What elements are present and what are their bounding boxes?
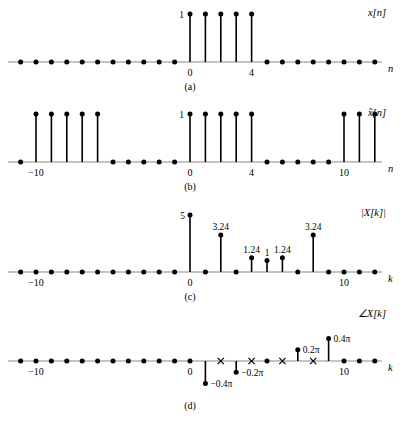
value-label: 1.24 xyxy=(274,245,291,255)
sample-point xyxy=(218,12,223,17)
value-label: 5 xyxy=(180,211,185,221)
sample-point xyxy=(265,359,270,364)
sample-point xyxy=(372,112,377,117)
value-label: 3.24 xyxy=(212,222,229,232)
sample-point xyxy=(280,255,285,260)
sample-point xyxy=(280,60,285,65)
sample-point xyxy=(295,160,300,165)
value-label: −0.4π xyxy=(210,379,232,389)
value-label: 0.4π xyxy=(334,334,351,344)
panel-c-plot: k|X[k]|53.241.2411.243.24−10010(c) xyxy=(0,200,407,310)
sample-point xyxy=(203,12,208,17)
sample-point xyxy=(141,60,146,65)
sample-point xyxy=(249,112,254,117)
sample-point xyxy=(342,60,347,65)
sample-point xyxy=(311,160,316,165)
sample-point xyxy=(111,60,116,65)
sample-point xyxy=(188,112,193,117)
x-tick-label: 0 xyxy=(188,67,193,78)
sample-point xyxy=(157,270,162,275)
sample-point xyxy=(49,60,54,65)
axis-variable-label: n xyxy=(388,63,393,74)
sample-point xyxy=(49,112,54,117)
sample-point xyxy=(203,381,208,386)
value-label: 0.2π xyxy=(303,345,320,355)
sample-point xyxy=(80,270,85,275)
sample-point xyxy=(172,270,177,275)
sample-point xyxy=(311,60,316,65)
sample-point xyxy=(64,359,69,364)
sample-point xyxy=(188,359,193,364)
panel-letter: (d) xyxy=(184,400,196,412)
sample-point xyxy=(372,359,377,364)
sample-point xyxy=(326,160,331,165)
sample-point xyxy=(342,270,347,275)
sample-point xyxy=(234,112,239,117)
sample-point xyxy=(64,60,69,65)
sample-point xyxy=(295,270,300,275)
sample-point xyxy=(126,160,131,165)
x-tick-label: 4 xyxy=(249,67,254,78)
panel-letter: (a) xyxy=(184,81,195,93)
signal-label: |X[k]| xyxy=(361,207,386,218)
sample-point xyxy=(49,359,54,364)
sample-point xyxy=(265,60,270,65)
sample-point xyxy=(172,60,177,65)
x-tick-label: −10 xyxy=(28,167,44,178)
panel-c: k|X[k]|53.241.2411.243.24−10010(c) xyxy=(0,200,407,310)
sample-point xyxy=(188,12,193,17)
sample-point xyxy=(141,160,146,165)
panel-a: nx[n]104(a) xyxy=(0,0,407,100)
dft-stem-figure: nx[n]104(a) nx̃[n]1−100410(b) k|X[k]|53.… xyxy=(0,0,407,421)
sample-point xyxy=(34,270,39,275)
sample-point xyxy=(18,359,23,364)
x-tick-label: 10 xyxy=(339,167,349,178)
sample-point xyxy=(18,270,23,275)
sample-point xyxy=(280,160,285,165)
sample-point xyxy=(172,160,177,165)
sample-point xyxy=(111,270,116,275)
sample-point xyxy=(357,60,362,65)
sample-point xyxy=(126,60,131,65)
sample-point xyxy=(326,270,331,275)
panel-letter: (c) xyxy=(184,291,195,303)
sample-point xyxy=(265,258,270,263)
sample-point xyxy=(265,160,270,165)
sample-point xyxy=(34,112,39,117)
panel-a-plot: nx[n]104(a) xyxy=(0,0,407,100)
value-label: 3.24 xyxy=(305,222,322,232)
sample-point xyxy=(372,60,377,65)
sample-point xyxy=(157,160,162,165)
sample-point xyxy=(80,359,85,364)
panel-d: k∠X[k]−0.4π−0.2π0.2π0.4π−10010(d) xyxy=(0,305,407,421)
sample-point xyxy=(234,270,239,275)
sample-point xyxy=(34,60,39,65)
sample-point xyxy=(141,270,146,275)
x-tick-label: 0 xyxy=(188,277,193,288)
sample-point xyxy=(372,270,377,275)
sample-point xyxy=(342,112,347,117)
value-label: 1.24 xyxy=(243,245,260,255)
sample-point xyxy=(157,359,162,364)
sample-point xyxy=(203,270,208,275)
sample-point xyxy=(126,359,131,364)
sample-point xyxy=(357,112,362,117)
panel-d-plot: k∠X[k]−0.4π−0.2π0.2π0.4π−10010(d) xyxy=(0,305,407,421)
sample-point xyxy=(111,160,116,165)
x-tick-label: −10 xyxy=(28,277,44,288)
value-label: 1 xyxy=(265,248,270,258)
sample-point xyxy=(64,112,69,117)
panel-letter: (b) xyxy=(184,181,196,193)
x-tick-label: 4 xyxy=(249,167,254,178)
sample-point xyxy=(357,359,362,364)
sample-point xyxy=(295,347,300,352)
signal-label: ∠X[k] xyxy=(358,308,386,319)
sample-point xyxy=(141,359,146,364)
sample-point xyxy=(111,359,116,364)
axis-variable-label: k xyxy=(388,362,393,373)
panel-b: nx̃[n]1−100410(b) xyxy=(0,100,407,200)
sample-point xyxy=(95,60,100,65)
sample-point xyxy=(249,255,254,260)
sample-point xyxy=(80,112,85,117)
sample-point xyxy=(357,270,362,275)
